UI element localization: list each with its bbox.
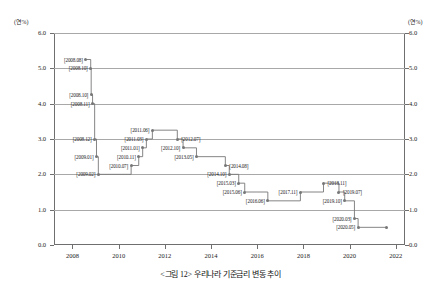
y-tick-mark [405,174,409,175]
point-label: [2016.06] [246,197,265,204]
data-point [97,173,100,176]
y-tick-mark [50,245,54,246]
y-tick-label: 1.0 [20,206,46,213]
point-label: [2013.05] [175,153,194,160]
x-tick-mark [165,245,166,249]
data-point [228,173,231,176]
x-tick-mark [72,245,73,249]
point-label: [2019.07] [343,189,362,196]
y-tick-label: 3.0 [409,135,435,142]
point-label: [2011.03] [125,136,144,143]
point-label: [2008.11] [71,100,90,107]
y-tick-label: 6.0 [409,29,435,36]
point-label: [2008.12] [73,136,92,143]
y-tick-label: 0.0 [409,241,435,248]
point-label: [2008.08] [64,56,83,63]
point-label: [2012.10] [161,144,180,151]
y-tick-mark [405,245,409,246]
data-point [145,138,148,141]
data-point [299,191,302,194]
point-label: [2014.10] [207,171,226,178]
point-label: [2011.06] [131,127,150,134]
point-label: [2008.10] [69,65,88,72]
x-tick-mark [396,245,397,249]
point-label: [2019.10] [323,197,342,204]
x-tick-label: 2014 [191,252,231,259]
y-tick-label: 2.0 [20,170,46,177]
x-tick-label: 2012 [145,252,185,259]
data-point [322,182,325,185]
point-label: [2018.11] [327,180,346,187]
x-tick-mark [350,245,351,249]
x-tick-label: 2020 [330,252,370,259]
figure-caption: <그림 12> 우리나라 기준금리 변동 추이 [0,268,441,288]
point-label: [2010.11] [117,153,136,160]
data-point [357,226,360,229]
data-point [385,226,388,229]
y-tick-mark [405,104,409,105]
y-tick-mark [50,104,54,105]
point-label: [2009.01] [75,153,94,160]
data-point [243,191,246,194]
point-label: [2010.07] [109,162,128,169]
data-point [224,164,227,167]
data-point [176,138,179,141]
y-tick-mark [50,174,54,175]
y-tick-mark [50,139,54,140]
step-line-series [54,33,405,245]
y-tick-mark [50,68,54,69]
x-tick-label: 2022 [376,252,416,259]
y-tick-label: 3.0 [20,135,46,142]
point-label: [2011.01] [121,144,140,151]
x-tick-mark [119,245,120,249]
y-tick-label: 4.0 [20,100,46,107]
point-label: [2014.08] [229,162,248,169]
y-tick-mark [405,139,409,140]
x-tick-label: 2018 [283,252,323,259]
x-tick-mark [303,245,304,249]
data-point [93,138,96,141]
y-tick-label: 2.0 [409,170,435,177]
point-label: [2009.02] [76,171,95,178]
data-point [353,217,356,220]
y-tick-label: 4.0 [409,100,435,107]
y-axis-unit-left: (연%) [14,17,28,26]
y-tick-mark [50,33,54,34]
plot-area [54,33,405,245]
y-tick-label: 5.0 [409,64,435,71]
chart-figure: (연%) (연%) 0.00.01.01.02.02.03.03.04.04.0… [0,0,441,288]
x-tick-label: 2016 [237,252,277,259]
x-tick-mark [211,245,212,249]
y-tick-mark [405,68,409,69]
y-tick-mark [50,210,54,211]
point-label: [2017.11] [279,189,298,196]
point-label: [2008.10] [69,91,88,98]
x-tick-label: 2008 [52,252,92,259]
point-label: [2012.07] [181,136,200,143]
point-label: [2015.06] [223,189,242,196]
data-point [237,182,240,185]
y-tick-label: 1.0 [409,206,435,213]
y-tick-label: 0.0 [20,241,46,248]
y-axis-unit-right: (연%) [408,17,422,26]
point-label: [2020.05] [336,224,355,231]
data-point [130,164,133,167]
data-point [151,129,154,132]
point-label: [2020.03] [332,215,351,222]
y-tick-label: 5.0 [20,64,46,71]
y-tick-mark [405,33,409,34]
y-tick-mark [405,210,409,211]
x-tick-label: 2010 [99,252,139,259]
point-label: [2015.03] [217,180,236,187]
y-tick-label: 6.0 [20,29,46,36]
x-tick-mark [257,245,258,249]
